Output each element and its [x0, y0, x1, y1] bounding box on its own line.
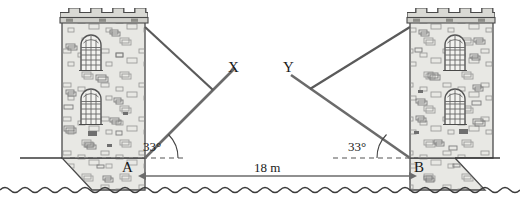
- left-castle-tower: [60, 8, 148, 190]
- label-distance-18m: 18 m: [254, 161, 280, 174]
- right-tower-window-upper: [443, 35, 467, 71]
- label-point-x: X: [228, 60, 239, 75]
- left-tower-window-lower: [79, 89, 103, 125]
- label-angle-left: 33°: [143, 140, 161, 153]
- label-point-y: Y: [283, 60, 294, 75]
- right-tower-battlements: [407, 8, 495, 23]
- label-angle-right: 33°: [348, 140, 366, 153]
- angle-arc-left: [169, 135, 179, 159]
- label-point-a: A: [122, 160, 133, 175]
- line-left-tower-top-to-sight: [145, 27, 213, 90]
- left-tower-battlements: [60, 8, 148, 23]
- right-tower-window-lower: [443, 89, 467, 125]
- label-point-b: B: [414, 160, 424, 175]
- left-tower-window-upper: [79, 35, 103, 71]
- line-right-tower-top-to-sight: [310, 27, 410, 89]
- diagram-canvas: A B X Y 33° 33° 18 m: [0, 0, 520, 205]
